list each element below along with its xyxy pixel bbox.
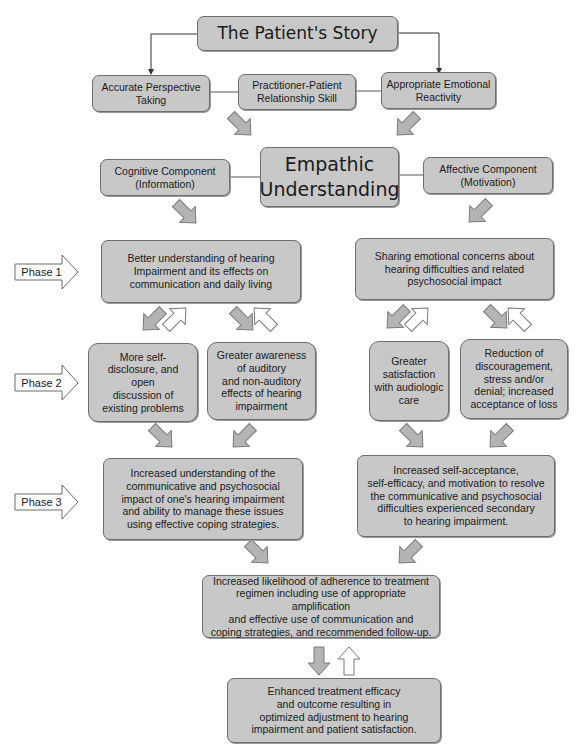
- arrow-p2-to-p3-a: [144, 419, 179, 454]
- arrow-to-adherence-left: [240, 535, 275, 570]
- arrow-to-empathic-left: [223, 107, 258, 142]
- skill-label: Appropriate Emotional Reactivity: [387, 78, 491, 104]
- phase2-box-2: Greater awareness of auditory and non-au…: [207, 342, 316, 420]
- cognitive-component-box: Cognitive Component (Information): [100, 159, 230, 196]
- arrow-p2-to-p3-b: [225, 419, 260, 454]
- affective-component-box: Affective Component (Motivation): [423, 157, 553, 194]
- skill-label: Accurate Perspective Taking: [101, 81, 200, 107]
- patients-story-box: The Patient's Story: [197, 16, 398, 51]
- empathic-understanding-label: Empathic Understanding: [260, 152, 400, 201]
- arrow-p2-to-p3-d: [482, 419, 517, 454]
- story-connector-right: [398, 33, 439, 71]
- phase2-text-1: More self- disclosure, and open discussi…: [102, 351, 184, 415]
- arrow-to-adherence-right: [391, 535, 426, 570]
- component-label: Affective Component (Motivation): [439, 163, 536, 189]
- skill-emotional-reactivity: Appropriate Emotional Reactivity: [381, 72, 496, 109]
- skill-label: Practitioner-Patient Relationship Skill: [252, 79, 341, 105]
- phase2-marker: Phase 2: [15, 365, 78, 400]
- feedback-arrow-c: [400, 300, 435, 335]
- empathic-understanding-box: Empathic Understanding: [260, 147, 399, 207]
- phase2-box-4: Reduction of discouragement, stress and/…: [460, 339, 568, 419]
- phase1-left-text: Better understanding of hearing Impairme…: [127, 252, 274, 290]
- phase2-box-3: Greater satisfaction with audiologic car…: [369, 341, 449, 421]
- arrow-to-phase1-right: [461, 194, 496, 229]
- adherence-text: Increased likelihood of adherence to tre…: [207, 575, 435, 639]
- phase3-left-box: Increased understanding of the communica…: [103, 458, 303, 540]
- adherence-box: Increased likelihood of adherence to tre…: [202, 575, 440, 638]
- outcome-text: Enhanced treatment efficacy and outcome …: [251, 685, 416, 736]
- skill-practitioner-patient: Practitioner-Patient Relationship Skill: [238, 74, 356, 110]
- component-label: Cognitive Component (Information): [115, 165, 216, 191]
- phase3-marker: Phase 3: [15, 485, 78, 519]
- arrow-to-phase1-left: [168, 195, 203, 230]
- phase1-right-text: Sharing emotional concerns about hearing…: [375, 250, 534, 288]
- arrow-to-outcome: [308, 647, 330, 675]
- phase1-marker: Phase 1: [15, 255, 78, 289]
- phase2-text-2: Greater awareness of auditory and non-au…: [217, 349, 306, 413]
- outcome-box: Enhanced treatment efficacy and outcome …: [227, 678, 441, 743]
- story-connector-left: [151, 34, 197, 72]
- phase1-left-box: Better understanding of hearing Impairme…: [101, 240, 301, 303]
- phase3-right-text: Increased self-acceptance, self-efficacy…: [367, 464, 544, 528]
- phase2-text-4: Reduction of discouragement, stress and/…: [471, 347, 558, 411]
- skill-accurate-perspective: Accurate Perspective Taking: [92, 75, 210, 112]
- arrow-p1-to-p2-a: [135, 302, 170, 337]
- phase2-label: Phase 2: [15, 365, 78, 400]
- feedback-arrow-outcome: [338, 647, 360, 675]
- phase2-text-3: Greater satisfaction with audiologic car…: [375, 355, 444, 406]
- phase1-label: Phase 1: [15, 255, 78, 289]
- arrow-to-empathic-right: [389, 107, 424, 142]
- phase2-box-1: More self- disclosure, and open discussi…: [88, 343, 198, 422]
- phase3-right-box: Increased self-acceptance, self-efficacy…: [357, 455, 555, 537]
- feedback-arrow-a: [158, 300, 193, 335]
- phase3-left-text: Increased understanding of the communica…: [121, 467, 284, 531]
- arrow-p2-to-p3-c: [395, 419, 430, 454]
- phase3-label: Phase 3: [15, 485, 78, 519]
- patients-story-label: The Patient's Story: [217, 23, 377, 44]
- phase1-right-box: Sharing emotional concerns about hearing…: [355, 238, 554, 300]
- arrow-p1-to-p2-c: [379, 300, 414, 335]
